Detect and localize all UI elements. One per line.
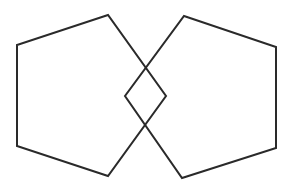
right-pentagon bbox=[125, 16, 276, 178]
diagram-canvas bbox=[0, 0, 297, 189]
pentagons-diagram bbox=[0, 0, 297, 189]
left-pentagon bbox=[17, 15, 166, 176]
